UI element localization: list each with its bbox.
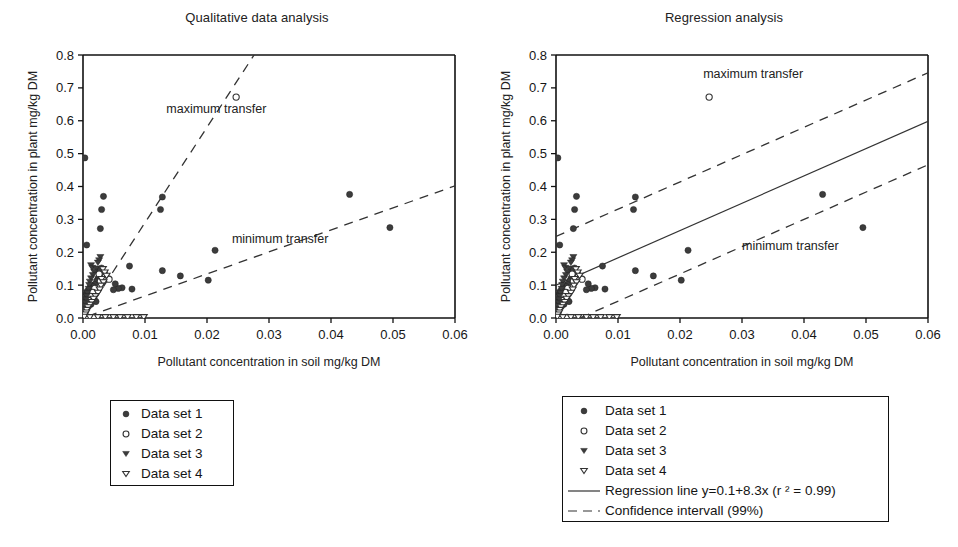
legend-item-data-set-3: Data set 3 bbox=[563, 441, 888, 461]
svg-text:0.5: 0.5 bbox=[56, 146, 74, 161]
filled-triangle-marker-icon bbox=[111, 444, 141, 464]
svg-text:0.00: 0.00 bbox=[543, 327, 568, 342]
legend-item-data-set-4: Data set 4 bbox=[563, 461, 888, 481]
svg-text:0.06: 0.06 bbox=[442, 327, 467, 342]
svg-text:0.05: 0.05 bbox=[853, 327, 878, 342]
legend-label: Regression line y=0.1+8.3x (r ² = 0.99) bbox=[605, 484, 836, 498]
svg-text:maximum transfer: maximum transfer bbox=[703, 67, 803, 81]
svg-text:0.1: 0.1 bbox=[56, 278, 74, 293]
legend-item-data-set-4: Data set 4 bbox=[111, 464, 233, 484]
svg-text:0.5: 0.5 bbox=[529, 146, 547, 161]
svg-text:0.6: 0.6 bbox=[529, 113, 547, 128]
svg-text:0.06: 0.06 bbox=[915, 327, 940, 342]
legend-label: Data set 1 bbox=[605, 404, 667, 418]
legend-label: Data set 3 bbox=[141, 447, 203, 461]
svg-text:0.04: 0.04 bbox=[791, 327, 816, 342]
filled-circle-marker-icon bbox=[111, 404, 141, 424]
open-triangle-marker-icon bbox=[111, 464, 141, 484]
svg-text:minimum transfer: minimum transfer bbox=[742, 239, 839, 253]
filled-circle-marker-icon bbox=[563, 401, 605, 421]
legend-item-data-set-2: Data set 2 bbox=[111, 424, 233, 444]
svg-text:0.7: 0.7 bbox=[529, 80, 547, 95]
svg-text:0.8: 0.8 bbox=[56, 48, 74, 63]
legend-label: Confidence intervall (99%) bbox=[605, 504, 763, 518]
plot-area-regression: 0.00.10.20.30.40.50.60.70.80.000.010.020… bbox=[478, 0, 958, 400]
legend-regression: Data set 1 Data set 2 Data set 3 Data se… bbox=[562, 396, 889, 522]
svg-text:0.0: 0.0 bbox=[529, 311, 547, 326]
svg-text:0.2: 0.2 bbox=[56, 245, 74, 260]
svg-text:0.04: 0.04 bbox=[318, 327, 343, 342]
svg-text:0.05: 0.05 bbox=[380, 327, 405, 342]
chart-panel-regression: Regression analysis 0.00.10.20.30.40.50.… bbox=[478, 0, 958, 400]
legend-item-data-set-1: Data set 1 bbox=[563, 401, 888, 421]
legend-item-data-set-2: Data set 2 bbox=[563, 421, 888, 441]
legend-item-confidence-interval: Confidence intervall (99%) bbox=[563, 501, 888, 521]
legend-item-data-set-3: Data set 3 bbox=[111, 444, 233, 464]
svg-text:0.3: 0.3 bbox=[56, 212, 74, 227]
legend-item-regression-line: Regression line y=0.1+8.3x (r ² = 0.99) bbox=[563, 481, 888, 501]
legend-label: Data set 4 bbox=[141, 467, 203, 481]
svg-text:0.00: 0.00 bbox=[70, 327, 95, 342]
legend-label: Data set 1 bbox=[141, 407, 203, 421]
figure-root: Qualitative data analysis 0.00.10.20.30.… bbox=[0, 0, 958, 547]
svg-text:Pollutant concentration in soi: Pollutant concentration in soil mg/kg DM bbox=[630, 355, 853, 369]
legend-item-data-set-1: Data set 1 bbox=[111, 404, 233, 424]
svg-text:minimum transfer: minimum transfer bbox=[232, 232, 329, 246]
svg-text:0.1: 0.1 bbox=[529, 278, 547, 293]
legend-label: Data set 2 bbox=[605, 424, 667, 438]
svg-text:0.02: 0.02 bbox=[667, 327, 692, 342]
svg-text:Pollutant concentration in pla: Pollutant concentration in plant mg/kg D… bbox=[26, 71, 40, 302]
legend-label: Data set 3 bbox=[605, 444, 667, 458]
legend-label: Data set 2 bbox=[141, 427, 203, 441]
open-circle-marker-icon bbox=[563, 421, 605, 441]
svg-text:0.8: 0.8 bbox=[529, 48, 547, 63]
plot-area-qualitative: 0.00.10.20.30.40.50.60.70.80.000.010.020… bbox=[0, 0, 478, 400]
solid-line-swatch-icon bbox=[563, 481, 605, 501]
svg-text:0.0: 0.0 bbox=[56, 311, 74, 326]
legend-label: Data set 4 bbox=[605, 464, 667, 478]
svg-text:0.03: 0.03 bbox=[729, 327, 754, 342]
svg-text:maximum transfer: maximum transfer bbox=[166, 102, 266, 116]
legend-qualitative: Data set 1 Data set 2 Data set 3 Data se… bbox=[110, 400, 234, 486]
open-circle-marker-icon bbox=[111, 424, 141, 444]
svg-text:Pollutant concentration in pla: Pollutant concentration in plant mg/kg D… bbox=[499, 71, 513, 302]
svg-text:0.4: 0.4 bbox=[529, 179, 547, 194]
svg-text:0.02: 0.02 bbox=[194, 327, 219, 342]
chart-panel-qualitative: Qualitative data analysis 0.00.10.20.30.… bbox=[0, 0, 478, 400]
svg-text:0.7: 0.7 bbox=[56, 80, 74, 95]
svg-text:Pollutant concentration in soi: Pollutant concentration in soil mg/kg DM bbox=[157, 355, 380, 369]
filled-triangle-marker-icon bbox=[563, 441, 605, 461]
svg-text:0.2: 0.2 bbox=[529, 245, 547, 260]
svg-text:0.01: 0.01 bbox=[132, 327, 157, 342]
open-triangle-marker-icon bbox=[563, 461, 605, 481]
svg-text:0.4: 0.4 bbox=[56, 179, 74, 194]
svg-text:0.3: 0.3 bbox=[529, 212, 547, 227]
svg-text:0.01: 0.01 bbox=[605, 327, 630, 342]
dashed-line-swatch-icon bbox=[563, 501, 605, 521]
svg-text:0.6: 0.6 bbox=[56, 113, 74, 128]
svg-text:0.03: 0.03 bbox=[256, 327, 281, 342]
